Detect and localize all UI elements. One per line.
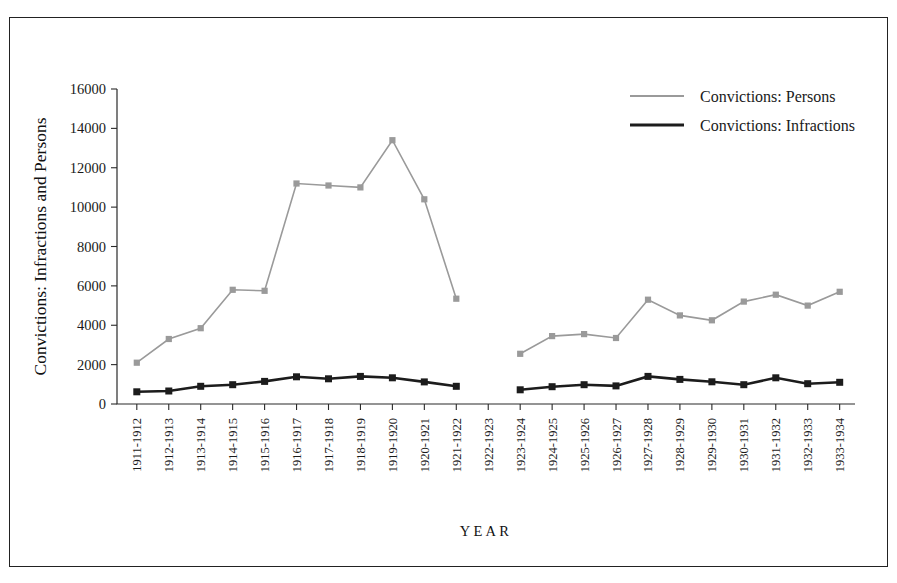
legend-label: Convictions: Persons — [700, 88, 836, 105]
data-point-marker — [676, 376, 683, 383]
x-tick-label: 1932-1933 — [801, 418, 815, 472]
data-point-marker — [197, 383, 204, 390]
x-tick-label: 1924-1925 — [546, 418, 560, 472]
y-tick-label: 14000 — [70, 120, 106, 136]
x-tick-label: 1921-1922 — [450, 418, 464, 472]
x-tick-label: 1918-1919 — [354, 418, 368, 472]
x-tick-label: 1911-1912 — [130, 418, 144, 472]
data-point-marker — [165, 388, 172, 395]
data-point-marker — [708, 378, 715, 385]
plot-area: 0200040006000800010000120001400016000191… — [10, 18, 889, 566]
data-point-marker — [645, 373, 652, 380]
x-tick-label: 1915-1916 — [258, 418, 272, 472]
x-tick-label: 1920-1921 — [418, 418, 432, 472]
data-point-marker — [581, 331, 587, 337]
data-point-marker — [581, 381, 588, 388]
data-point-marker — [517, 351, 523, 357]
x-axis-title: YEAR — [460, 523, 512, 539]
x-tick-label: 1929-1930 — [705, 418, 719, 472]
x-tick-label: 1912-1913 — [162, 418, 176, 472]
x-tick-label: 1925-1926 — [578, 418, 592, 472]
y-tick-label: 16000 — [70, 81, 106, 97]
data-point-marker — [198, 325, 204, 331]
line-chart: 0200040006000800010000120001400016000191… — [10, 18, 889, 566]
data-point-marker — [325, 375, 332, 382]
series-persons — [134, 137, 843, 366]
data-point-marker — [421, 378, 428, 385]
series-line — [137, 140, 457, 363]
x-tick-label: 1928-1929 — [673, 418, 687, 472]
data-point-marker — [613, 335, 619, 341]
x-tick-label: 1927-1928 — [641, 418, 655, 472]
x-tick-label: 1933-1934 — [833, 417, 847, 472]
data-point-marker — [836, 379, 843, 386]
x-tick-label: 1917-1918 — [322, 418, 336, 472]
data-point-marker — [166, 336, 172, 342]
data-point-marker — [389, 137, 395, 143]
data-point-marker — [293, 180, 299, 186]
data-point-marker — [804, 380, 811, 387]
data-point-marker — [837, 289, 843, 295]
data-point-marker — [133, 388, 140, 395]
data-point-marker — [709, 317, 715, 323]
data-point-marker — [134, 360, 140, 366]
x-tick-label: 1931-1932 — [769, 418, 783, 472]
axis-lines — [117, 89, 855, 404]
x-tick-label: 1913-1914 — [194, 417, 208, 472]
data-point-marker — [325, 182, 331, 188]
y-tick-label: 8000 — [77, 239, 106, 255]
data-point-marker — [293, 373, 300, 380]
series-infractions — [133, 373, 843, 395]
data-point-marker — [357, 184, 363, 190]
data-point-marker — [613, 382, 620, 389]
y-tick-label: 4000 — [77, 317, 106, 333]
x-tick-label: 1926-1927 — [610, 418, 624, 472]
y-axis-title: Convictions: Infractions and Persons — [30, 117, 50, 375]
y-tick-label: 0 — [99, 396, 106, 412]
x-tick-label: 1923-1924 — [514, 417, 528, 472]
y-tick-label: 2000 — [77, 357, 106, 373]
data-point-marker — [549, 333, 555, 339]
data-point-marker — [645, 297, 651, 303]
data-point-marker — [772, 374, 779, 381]
legend-label: Convictions: Infractions — [700, 117, 855, 134]
x-tick-label: 1914-1915 — [226, 418, 240, 472]
y-tick-label: 12000 — [70, 160, 106, 176]
y-tick-label: 10000 — [70, 199, 106, 215]
data-point-marker — [453, 296, 459, 302]
data-point-marker — [741, 299, 747, 305]
series-line — [520, 292, 840, 354]
x-tick-label: 1922-1923 — [482, 418, 496, 472]
data-point-marker — [740, 381, 747, 388]
x-tick-label: 1919-1920 — [386, 418, 400, 472]
data-point-marker — [261, 378, 268, 385]
data-point-marker — [805, 303, 811, 309]
x-tick-label: 1930-1931 — [737, 418, 751, 472]
legend-item-persons: Convictions: Persons — [630, 88, 836, 105]
data-point-marker — [549, 383, 556, 390]
data-point-marker — [230, 287, 236, 293]
data-point-marker — [677, 312, 683, 318]
legend-item-infractions: Convictions: Infractions — [630, 117, 855, 134]
data-point-marker — [453, 383, 460, 390]
x-tick-label: 1916-1917 — [290, 418, 304, 472]
data-point-marker — [517, 386, 524, 393]
data-point-marker — [389, 374, 396, 381]
data-point-marker — [421, 196, 427, 202]
data-point-marker — [229, 381, 236, 388]
data-point-marker — [357, 373, 364, 380]
data-point-marker — [262, 288, 268, 294]
data-point-marker — [773, 292, 779, 298]
y-tick-label: 6000 — [77, 278, 106, 294]
chart-figure-frame: 0200040006000800010000120001400016000191… — [9, 17, 888, 567]
